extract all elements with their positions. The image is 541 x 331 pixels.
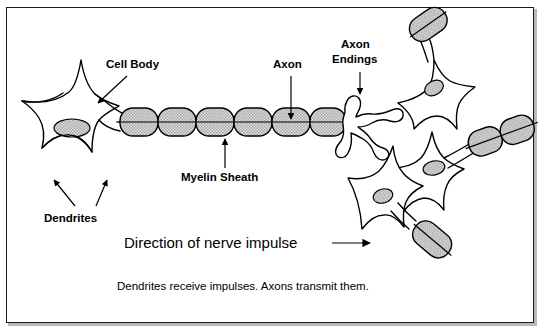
figure-canvas: Cell Body Axon Axon Endings Myelin Sheat… [0,0,541,331]
label-axon: Axon [273,58,302,70]
myelin-node [403,2,453,48]
myelin-node [405,214,459,265]
label-axon-endings-group: Axon Endings [332,38,377,94]
myelinated-axon-group [116,108,347,136]
receiving-neuron-top [398,2,475,129]
label-myelin-sheath: Myelin Sheath [181,171,258,183]
label-dendrites-group: Dendrites [44,180,107,224]
label-dendrites: Dendrites [44,212,97,224]
figure-caption: Dendrites receive impulses. Axons transm… [117,280,369,292]
direction-of-impulse-text: Direction of nerve impulse [124,234,297,251]
label-cell-body: Cell Body [106,58,160,70]
leader-dendrite-left [54,180,75,206]
soma-shape [22,60,119,152]
axon-stalk-2 [420,40,428,62]
nucleus [54,119,90,137]
myelin-node-pair [461,110,541,161]
leader-cell-body [98,76,127,103]
neuron-diagram: Cell Body Axon Axon Endings Myelin Sheat… [0,0,541,331]
label-axon-endings-line2: Endings [332,53,377,65]
label-cell-body-group: Cell Body [98,58,160,103]
direction-annotation-group: Direction of nerve impulse [124,234,370,251]
label-axon-endings-line1: Axon [341,38,370,50]
leader-dendrite-right [96,180,107,206]
cell-body-group [22,60,122,152]
label-myelin-sheath-group: Myelin Sheath [181,139,258,183]
axon-stalk [429,38,434,60]
